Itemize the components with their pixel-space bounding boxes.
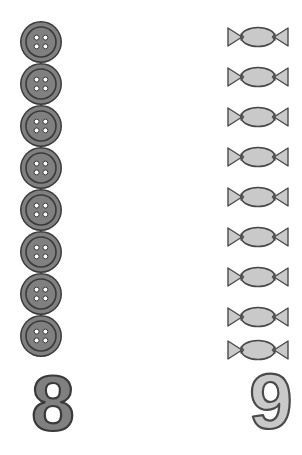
wrapped-candy-icon: [226, 64, 290, 90]
wrapped-candy-icon: [226, 144, 290, 170]
wrapped-candy-icon: [226, 24, 290, 50]
numeral-eight: 8: [8, 362, 98, 442]
wrapped-candy-icon: [226, 264, 290, 290]
button-icon: [19, 188, 63, 232]
buttons-column: 8: [0, 0, 100, 455]
button-icon: [19, 146, 63, 190]
button-icon: [19, 272, 63, 316]
svg-text:9: 9: [249, 360, 292, 440]
wrapped-candy-icon: [226, 224, 290, 250]
button-icon: [19, 62, 63, 106]
wrapped-candy-icon: [226, 104, 290, 130]
counting-worksheet: 8 9: [0, 0, 302, 455]
candies-column: 9: [200, 0, 302, 455]
button-icon: [19, 314, 63, 358]
wrapped-candy-icon: [226, 304, 290, 330]
numeral-nine: 9: [226, 360, 302, 440]
svg-text:8: 8: [31, 362, 74, 442]
button-icon: [19, 230, 63, 274]
button-icon: [19, 104, 63, 148]
wrapped-candy-icon: [226, 184, 290, 210]
button-icon: [19, 20, 63, 64]
